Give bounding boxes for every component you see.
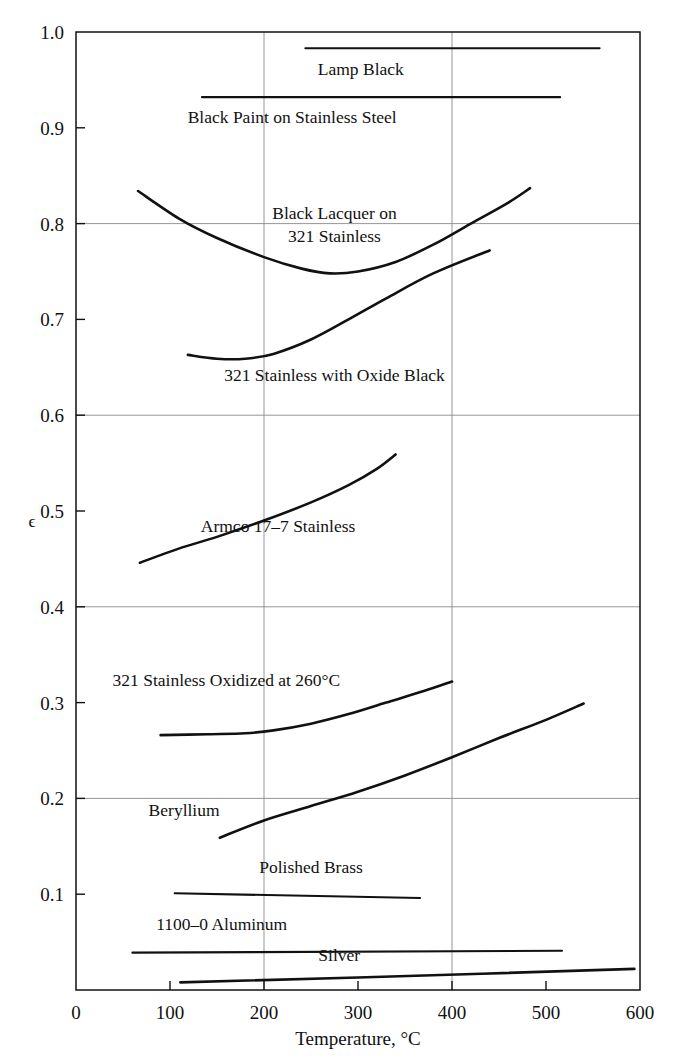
series-line-7	[175, 893, 420, 898]
series-line-6	[220, 704, 584, 838]
chart-canvas: 0.10.20.30.40.50.60.70.80.91.0 010020030…	[0, 0, 676, 1064]
y-tick-label: 0.8	[40, 214, 64, 235]
x-tick-labels: 0100200300400500600	[71, 1002, 654, 1023]
curve-label-7: Polished Brass	[259, 857, 363, 877]
y-tick-label: 0.3	[40, 693, 64, 714]
curve-label-5: 321 Stainless Oxidized at 260°C	[113, 670, 341, 690]
x-axis-title: Temperature, °C	[295, 1028, 421, 1049]
x-tick-label: 0	[71, 1002, 81, 1023]
series-line-4	[140, 454, 396, 562]
curve-label-6: Beryllium	[149, 800, 220, 820]
curve-label-8: 1100–0 Aluminum	[156, 914, 287, 934]
y-tick-label: 0.1	[40, 884, 64, 905]
y-tick-label: 1.0	[40, 22, 64, 43]
y-tick-label: 0.6	[40, 405, 64, 426]
curve-label-2-line2: 321 Stainless	[288, 226, 381, 246]
y-tick-label: 0.4	[40, 597, 64, 618]
x-tick-label: 200	[250, 1002, 279, 1023]
y-tick-label: 0.5	[40, 501, 64, 522]
curve-label-0: Lamp Black	[318, 59, 404, 79]
curve-label-9: Silver	[318, 945, 360, 965]
y-axis-title: ϵ	[29, 512, 36, 531]
x-tick-label: 100	[156, 1002, 185, 1023]
series-line-3	[188, 250, 490, 359]
curve-label-4: Armco 17–7 Stainless	[201, 516, 356, 536]
x-tick-label: 400	[438, 1002, 467, 1023]
curve-label-1: Black Paint on Stainless Steel	[188, 107, 397, 127]
plot-frame	[76, 32, 640, 990]
x-tick-label: 500	[532, 1002, 561, 1023]
emissivity-temperature-chart: 0.10.20.30.40.50.60.70.80.91.0 010020030…	[0, 0, 676, 1064]
curve-label-3: 321 Stainless with Oxide Black	[224, 365, 445, 385]
y-tick-labels: 0.10.20.30.40.50.60.70.80.91.0	[40, 22, 64, 905]
y-tick-label: 0.2	[40, 788, 64, 809]
y-tick-label: 0.7	[40, 309, 64, 330]
y-tick-label: 0.9	[40, 118, 64, 139]
series-line-9	[180, 969, 634, 982]
x-tick-label: 600	[626, 1002, 655, 1023]
x-tick-label: 300	[344, 1002, 373, 1023]
curve-labels-group: Lamp BlackBlack Paint on Stainless Steel…	[113, 59, 446, 965]
curve-label-2: Black Lacquer on	[272, 203, 397, 223]
gridlines-group	[76, 32, 640, 990]
